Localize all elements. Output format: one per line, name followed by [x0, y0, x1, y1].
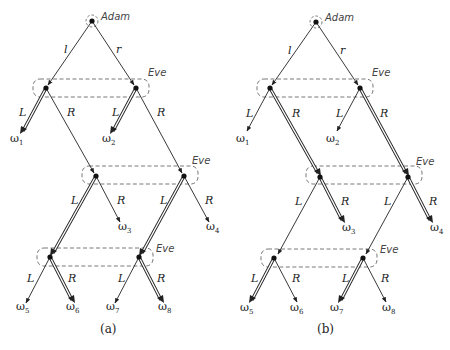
action-label: r [116, 43, 122, 56]
edge-r [316, 22, 358, 85]
action-label: R [380, 272, 389, 285]
outcome-w1: ω1 [236, 132, 249, 147]
player-label-eve: Eve [380, 244, 398, 255]
action-label: L [335, 107, 343, 120]
action-label: R [156, 272, 165, 285]
action-label: L [18, 106, 26, 119]
node [181, 173, 186, 178]
outcome-w2: ω2 [102, 132, 115, 147]
player-label-eve: Eve [192, 155, 210, 166]
action-label: l [288, 44, 292, 57]
action-label: L [70, 194, 78, 207]
edge-L-n2L-double [50, 176, 96, 256]
caption-b: (b) [317, 322, 334, 336]
edge-l [272, 22, 316, 85]
game-tree-diagram: Adam Eve Eve Eve l r L R L R L R L R L R… [0, 0, 450, 350]
action-label: R [291, 107, 300, 120]
node [267, 85, 272, 90]
action-label: R [291, 272, 300, 285]
outcome-w2: ω2 [326, 132, 339, 147]
action-label: R [156, 106, 165, 119]
outcome-w1: ω1 [10, 132, 23, 147]
outcome-w5: ω5 [16, 300, 29, 315]
player-label-eve: Eve [416, 156, 434, 167]
outcome-w7: ω7 [330, 301, 343, 316]
node [405, 174, 410, 179]
action-label: R [379, 107, 388, 120]
edge-R-n1R-double [360, 88, 409, 176]
action-label: R [116, 194, 125, 207]
node [360, 255, 365, 260]
action-label: L [117, 272, 125, 285]
action-label: r [340, 44, 346, 57]
action-label: L [341, 272, 349, 285]
edge-R-n1L [46, 88, 94, 173]
node [133, 85, 138, 90]
player-label-adam: Adam [324, 12, 354, 23]
outcome-w6: ω6 [290, 301, 304, 316]
action-label: L [245, 107, 253, 120]
node [43, 85, 48, 90]
panel-b: Adam Eve Eve Eve l r L R L R L R L R L R… [236, 12, 444, 336]
outcome-w6: ω6 [66, 300, 80, 315]
outcome-w8: ω8 [158, 300, 171, 315]
player-label-eve: Eve [148, 67, 166, 78]
action-label: l [64, 43, 68, 56]
panel-a: Adam Eve Eve Eve l r L R L R L R L R L R… [10, 11, 220, 336]
player-label-adam: Adam [100, 11, 130, 22]
edge-R-n1R [136, 88, 182, 173]
node [93, 173, 98, 178]
player-label-eve: Eve [372, 67, 390, 78]
caption-a: (a) [100, 322, 117, 336]
outcome-w4: ω4 [206, 220, 220, 235]
action-label: R [428, 195, 437, 208]
edge-r [92, 21, 134, 85]
outcome-w3: ω3 [342, 221, 355, 236]
node [47, 254, 52, 259]
action-label: L [26, 272, 34, 285]
outcome-w4: ω4 [430, 221, 444, 236]
action-label: R [66, 106, 75, 119]
node [317, 174, 322, 179]
outcome-w5: ω5 [240, 301, 253, 316]
outcome-w8: ω8 [382, 301, 395, 316]
edge-L-n2R [366, 177, 408, 254]
action-label: R [67, 272, 76, 285]
action-label: R [340, 195, 349, 208]
node [136, 254, 141, 259]
edge-R-n1L-double [270, 88, 321, 176]
node-root [89, 18, 94, 23]
action-label: L [383, 195, 391, 208]
edge-L-n2L [278, 177, 320, 254]
action-label: L [294, 195, 302, 208]
action-label: L [250, 272, 258, 285]
outcome-w3: ω3 [118, 220, 131, 235]
edge-l [48, 21, 92, 85]
action-label: L [159, 194, 167, 207]
player-label-eve: Eve [156, 243, 174, 254]
node-root [313, 19, 318, 24]
node [271, 255, 276, 260]
action-label: R [204, 194, 213, 207]
node [357, 85, 362, 90]
outcome-w7: ω7 [106, 300, 119, 315]
action-label: L [111, 106, 119, 119]
